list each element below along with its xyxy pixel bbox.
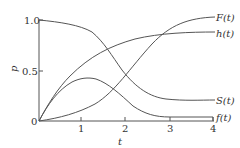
- x-axis-label: t: [118, 136, 123, 147]
- legend-S: S(t): [216, 95, 235, 106]
- origin-label: 0: [31, 116, 37, 127]
- x-tick-label-3: 3: [167, 123, 173, 134]
- probability-chart: 1.0 0.5 0 1 2 3 4 t p F(t) h(t) S(t) f(t…: [0, 0, 240, 148]
- x-tick-label-2: 2: [122, 123, 128, 134]
- legend-F: F(t): [215, 12, 235, 23]
- y-tick-label-05: 0.5: [22, 66, 38, 77]
- legend-h: h(t): [216, 28, 234, 39]
- legend-f: f(t): [215, 112, 232, 123]
- y-axis-label: p: [8, 65, 19, 72]
- y-tick-label-1: 1.0: [24, 15, 40, 26]
- curve-f: [39, 78, 213, 121]
- x-tick-label-1: 1: [78, 123, 84, 134]
- x-tick-label-4: 4: [210, 123, 216, 134]
